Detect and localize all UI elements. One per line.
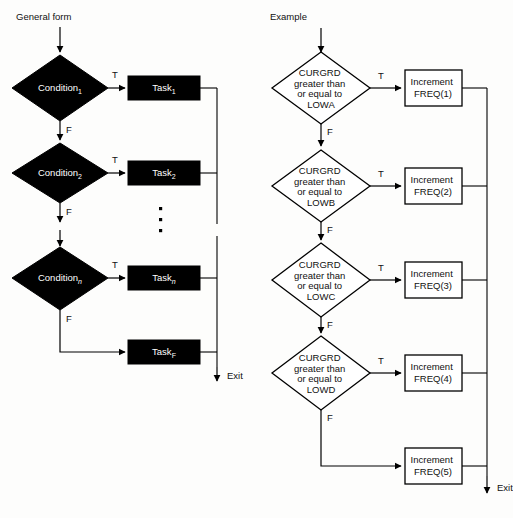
panel-example: Example CURGRD greater than or equal to … [270, 11, 513, 493]
false-label-1: F [66, 124, 72, 135]
task-box-freq1-label: Increment FREQ(1) [411, 76, 456, 99]
false-label-lowd: F [327, 412, 333, 423]
ellipsis-general-form [159, 207, 162, 232]
exit-label-general: Exit [227, 370, 243, 381]
flowchart-canvas: General form Condition1 T F Task1 [0, 0, 513, 518]
task-box-freq2-label: Increment FREQ(2) [411, 174, 456, 197]
true-label-lowa: T [378, 70, 384, 81]
false-label-lowb: F [327, 224, 333, 235]
true-label-1: T [112, 69, 118, 80]
false-label-lowc: F [327, 319, 333, 330]
true-label-lowd: T [378, 355, 384, 366]
panel-general-form: General form Condition1 T F Task1 [12, 11, 243, 381]
true-label-n: T [112, 259, 118, 270]
false-branch-lowd-to-freq5 [321, 410, 401, 466]
panel-title-general-form: General form [16, 11, 72, 22]
flowchart-figure: General form Condition1 T F Task1 [0, 0, 513, 518]
true-label-lowc: T [378, 262, 384, 273]
task-box-freq3-label: Increment FREQ(3) [411, 268, 456, 291]
exit-label-example: Exit [497, 482, 513, 493]
true-label-lowb: T [378, 168, 384, 179]
task-box-freq5-label: Increment FREQ(5) [411, 454, 456, 477]
panel-title-example: Example [270, 11, 307, 22]
false-label-2: F [66, 206, 72, 217]
false-label-n: F [66, 313, 72, 324]
false-label-lowa: F [327, 126, 333, 137]
true-label-2: T [112, 154, 118, 165]
task-box-freq4-label: Increment FREQ(4) [411, 361, 456, 384]
